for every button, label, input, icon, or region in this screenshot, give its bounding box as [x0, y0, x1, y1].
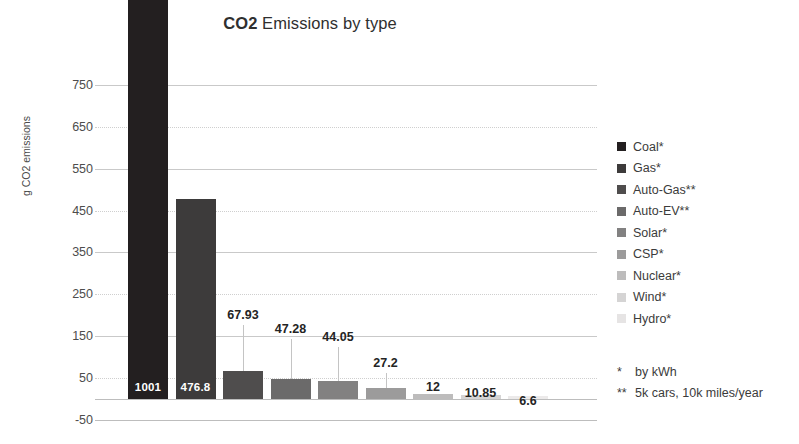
legend-item[interactable]: Hydro* [617, 308, 696, 330]
y-axis-tick-label: 650 [49, 120, 93, 134]
bar[interactable] [413, 394, 453, 399]
bar[interactable] [318, 381, 358, 399]
y-axis-tick-label: 750 [49, 78, 93, 92]
legend: Coal*Gas*Auto-Gas**Auto-EV**Solar*CSP*Nu… [617, 136, 696, 330]
legend-item-label: Auto-EV** [633, 204, 689, 218]
footnote-marker: * [617, 362, 635, 383]
legend-swatch-icon [617, 250, 626, 259]
chart-title-strong: CO2 [223, 14, 257, 32]
gridline [95, 169, 597, 170]
bar-value-label: 1001 [128, 381, 168, 393]
legend-swatch-icon [617, 271, 626, 280]
bar-value-label: 27.2 [373, 356, 397, 370]
bar-value-label: 44.05 [322, 330, 353, 344]
gridline [95, 378, 597, 379]
bar-value-label: 12 [426, 380, 440, 394]
legend-swatch-icon [617, 293, 626, 302]
co2-emissions-bar-chart: CO2 Emissions by type g CO2 emissions 10… [0, 0, 799, 444]
bar-value-label: 47.28 [275, 322, 306, 336]
bar[interactable]: 1001 [128, 0, 168, 399]
y-axis-tick-label: 50 [49, 371, 93, 385]
y-axis-title: g CO2 emissions [20, 116, 32, 196]
plot-area: 1001476.867.9347.2844.0527.21210.856.6 [95, 64, 597, 420]
legend-item[interactable]: Nuclear* [617, 265, 696, 287]
gridline [95, 420, 597, 421]
bar[interactable] [271, 379, 311, 399]
gridline [95, 85, 597, 86]
legend-swatch-icon [617, 207, 626, 216]
footnote-text: by kWh [635, 365, 677, 379]
legend-item[interactable]: Auto-EV** [617, 201, 696, 223]
legend-item[interactable]: Wind* [617, 287, 696, 309]
bar[interactable]: 476.8 [176, 199, 216, 399]
legend-item-label: Hydro* [633, 312, 671, 326]
legend-item-label: CSP* [633, 247, 664, 261]
legend-item-label: Solar* [633, 226, 667, 240]
footnote-text: 5k cars, 10k miles/year [635, 386, 763, 400]
legend-item[interactable]: CSP* [617, 244, 696, 266]
label-leader-line [243, 325, 244, 371]
y-axis-tick-label: 450 [49, 204, 93, 218]
chart-title: CO2 Emissions by type [0, 14, 620, 33]
legend-item-label: Gas* [633, 161, 661, 175]
y-axis-tick-label: -50 [49, 413, 93, 427]
bar[interactable] [223, 371, 263, 399]
legend-swatch-icon [617, 142, 626, 151]
footnotes: *by kWh**5k cars, 10k miles/year [617, 362, 763, 404]
bar-value-label: 67.93 [227, 308, 258, 322]
gridline [95, 294, 597, 295]
legend-swatch-icon [617, 185, 626, 194]
legend-item[interactable]: Solar* [617, 222, 696, 244]
bar-value-label: 10.85 [465, 386, 496, 400]
footnote: **5k cars, 10k miles/year [617, 383, 763, 404]
y-axis-tick-label: 250 [49, 287, 93, 301]
footnote-marker: ** [617, 383, 635, 404]
gridline [95, 252, 597, 253]
y-axis-tick-label: 550 [49, 162, 93, 176]
legend-item-label: Coal* [633, 140, 664, 154]
gridline [95, 127, 597, 128]
bar-value-label: 6.6 [519, 394, 536, 408]
legend-item-label: Nuclear* [633, 269, 681, 283]
legend-item[interactable]: Coal* [617, 136, 696, 158]
legend-item[interactable]: Auto-Gas** [617, 179, 696, 201]
label-leader-line [386, 373, 387, 388]
gridline [95, 211, 597, 212]
legend-swatch-icon [617, 314, 626, 323]
legend-item-label: Auto-Gas** [633, 183, 696, 197]
bar-value-label: 476.8 [176, 381, 216, 393]
legend-item[interactable]: Gas* [617, 158, 696, 180]
label-leader-line [338, 347, 339, 381]
y-axis-tick-label: 150 [49, 329, 93, 343]
footnote: *by kWh [617, 362, 763, 383]
y-axis-tick-label: 350 [49, 245, 93, 259]
legend-item-label: Wind* [633, 290, 666, 304]
legend-swatch-icon [617, 164, 626, 173]
chart-title-rest: Emissions by type [257, 14, 396, 32]
legend-swatch-icon [617, 228, 626, 237]
bar[interactable] [366, 388, 406, 399]
label-leader-line [291, 339, 292, 379]
